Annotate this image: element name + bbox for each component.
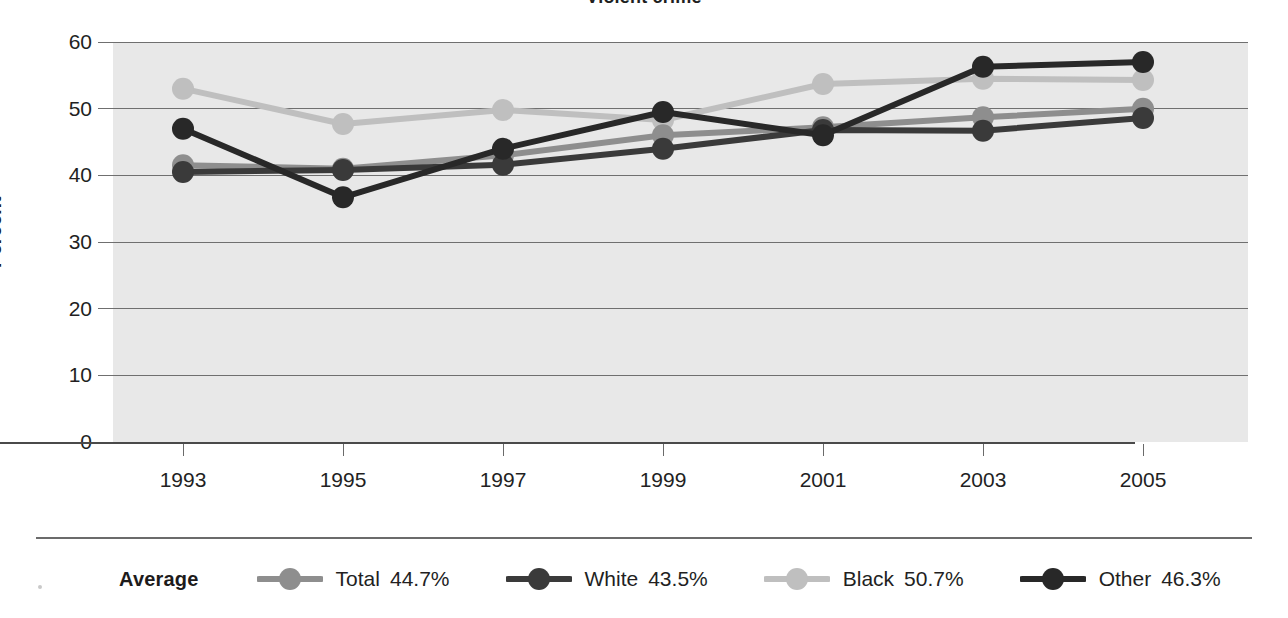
legend-item-black[interactable]: Black50.7% — [764, 566, 964, 592]
legend-marker-icon — [257, 566, 323, 592]
x-axis-tick-mark — [503, 444, 504, 456]
legend-items: Total44.7%White43.5%Black50.7%Other46.3% — [257, 566, 1277, 592]
x-axis-tick-label: 1993 — [133, 469, 233, 490]
x-axis-tick-mark — [983, 444, 984, 456]
legend-marker-icon — [764, 566, 830, 592]
x-axis-tick-mark — [1143, 444, 1144, 456]
legend-separator — [36, 537, 1252, 539]
x-axis-tick-mark — [183, 444, 184, 456]
y-axis-tick-label: 50 — [32, 98, 92, 119]
x-axis-tick-label: 2005 — [1093, 469, 1193, 490]
legend-title: Average — [119, 568, 199, 591]
gridline — [98, 242, 1248, 243]
chart-title: Violent crime — [0, 0, 1288, 8]
y-axis-tick-label: 40 — [32, 164, 92, 185]
chart-legend: Average Total44.7%White43.5%Black50.7%Ot… — [36, 556, 1252, 602]
x-axis-tick-label: 1995 — [293, 469, 393, 490]
legend-average-value: 46.3% — [1161, 567, 1221, 591]
gridline — [98, 175, 1248, 176]
gridline — [98, 375, 1248, 376]
legend-label: Other — [1099, 567, 1152, 591]
x-axis-tick-mark — [343, 444, 344, 456]
legend-item-total[interactable]: Total44.7% — [257, 566, 450, 592]
scan-artifact-speck — [38, 585, 42, 589]
legend-label: White — [585, 567, 639, 591]
y-axis-tick-label: 30 — [32, 231, 92, 252]
y-axis-tick-label: 60 — [32, 31, 92, 52]
legend-average-value: 43.5% — [648, 567, 708, 591]
legend-average-value: 44.7% — [390, 567, 450, 591]
y-axis-tick-label: 20 — [32, 298, 92, 319]
gridline — [98, 42, 1248, 43]
gridline — [98, 308, 1248, 309]
x-axis-tick-label: 2003 — [933, 469, 1033, 490]
y-axis-tick-label: 10 — [32, 364, 92, 385]
x-axis-tick-mark — [823, 444, 824, 456]
gridline — [98, 108, 1248, 109]
x-axis-tick-label: 2001 — [773, 469, 873, 490]
legend-marker-icon — [1020, 566, 1086, 592]
x-axis-tick-mark — [663, 444, 664, 456]
x-axis-tick-label: 1997 — [453, 469, 553, 490]
violent-crime-line-chart: Violent crime Percent 6050403020100 1993… — [0, 0, 1288, 618]
legend-average-value: 50.7% — [904, 567, 964, 591]
y-axis-title: Percent — [0, 196, 6, 268]
x-axis-tick-label: 1999 — [613, 469, 713, 490]
legend-label: Black — [843, 567, 894, 591]
legend-item-white[interactable]: White43.5% — [506, 566, 708, 592]
legend-marker-icon — [506, 566, 572, 592]
legend-label: Total — [336, 567, 380, 591]
x-axis-line — [0, 442, 1135, 444]
legend-item-other[interactable]: Other46.3% — [1020, 566, 1221, 592]
